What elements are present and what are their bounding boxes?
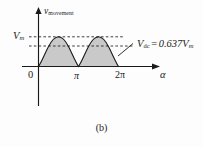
y-axis-label: vmovement: [44, 7, 74, 17]
x-tick-label-0: 0: [28, 70, 33, 81]
y-axis-arrowhead: [35, 7, 41, 14]
x-axis-arrowhead: [152, 63, 160, 69]
figure-container: vmovement Vm Vdc=0.637Vm 0 π 2π α (b): [0, 0, 203, 147]
vdc-leader-line: [118, 44, 133, 57]
x-axis-label: α: [160, 70, 166, 81]
vdc-value-subscript: m: [189, 42, 194, 49]
x-tick-label-pi: π: [74, 71, 79, 81]
x-tick-label-2pi: 2π: [115, 70, 125, 80]
vdc-subscript: dc: [143, 42, 149, 49]
figure-caption: (b): [0, 122, 203, 133]
vm-subscript: m: [19, 34, 24, 41]
y-axis-label-subscript: movement: [48, 10, 74, 16]
vm-axis-label: Vm: [13, 31, 24, 42]
vdc-equals-sign: =: [150, 38, 159, 49]
vdc-value: 0.637V: [159, 38, 189, 49]
rectified-sine-shaded-area: [39, 37, 119, 67]
vdc-annotation: Vdc=0.637Vm: [137, 39, 194, 50]
